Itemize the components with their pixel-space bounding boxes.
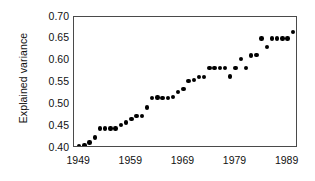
data-point [119,123,123,127]
x-tick-label: 1949 [58,154,98,166]
data-point [82,143,86,146]
data-point [202,75,206,79]
data-point [129,117,133,121]
plot-area [73,16,297,147]
data-point [155,95,159,99]
data-point [285,36,289,40]
data-point [186,79,190,83]
data-point [150,96,154,100]
data-point [166,96,170,100]
data-point [291,30,295,34]
data-point [223,66,227,70]
data-point [249,53,253,57]
data-point [265,45,269,49]
data-point [108,126,112,130]
data-point [270,36,274,40]
data-point [140,114,144,118]
data-point [145,105,149,109]
data-point [233,66,237,70]
data-point [259,36,263,40]
data-point [275,36,279,40]
scatter-points-layer [74,17,296,146]
data-point [124,120,128,124]
data-point [87,140,91,144]
data-point [197,75,201,79]
x-tick-label: 1989 [267,154,307,166]
data-point [93,135,97,139]
x-tick-label: 1959 [110,154,150,166]
x-tick-label: 1979 [214,154,254,166]
data-point [77,144,81,146]
data-point [212,66,216,70]
data-point [171,95,175,99]
data-point [280,36,284,40]
data-point [181,87,185,91]
chart-figure: Explained variance 0.400.450.500.550.600… [0,0,315,181]
data-point [103,126,107,130]
data-point [239,57,243,61]
data-point [218,66,222,70]
data-point [228,74,232,78]
x-tick-label: 1969 [162,154,202,166]
data-point [207,66,211,70]
data-point [176,90,180,94]
data-point [98,126,102,130]
data-point [113,126,117,130]
data-point [134,114,138,118]
data-point [244,66,248,70]
data-point [160,96,164,100]
data-point [254,53,258,57]
data-point [192,78,196,82]
